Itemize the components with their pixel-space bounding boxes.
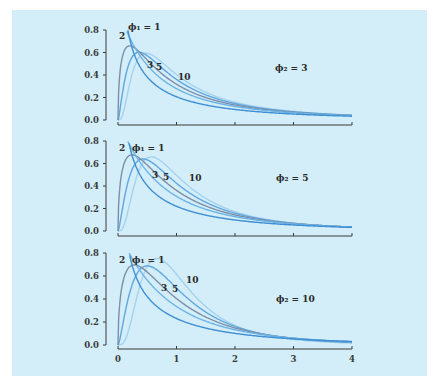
- f-distribution-chart: 0.8 0.6 0.4 0.2 0.0 2 ϕ₁ = 1 3 5 10 ϕ₂ =…: [0, 0, 438, 385]
- y-tick-label: 0.0: [84, 226, 99, 236]
- phi2-annotation: ϕ₂ = 3: [275, 63, 307, 73]
- y-tick-label: 0.0: [84, 115, 99, 125]
- x-tick-label: 0: [115, 354, 121, 364]
- curve-label-phi1-1: ϕ₁ = 1: [128, 22, 160, 32]
- phi2-annotation: ϕ₂ = 10: [276, 294, 315, 304]
- x-axis: [118, 233, 352, 236]
- y-axis: [103, 30, 106, 120]
- y-axis: [103, 253, 106, 345]
- curve-label-phi1-3: 3: [152, 170, 158, 180]
- phi2-annotation: ϕ₂ = 5: [276, 173, 308, 183]
- curve-label-phi1-1: ϕ₁ = 1: [132, 255, 164, 265]
- panel-curves: [118, 142, 352, 231]
- curve-label-phi1-2: 2: [119, 31, 125, 41]
- curve-label-phi1-10: 10: [189, 173, 202, 183]
- y-tick-label: 0.6: [84, 271, 99, 281]
- panel-curves: [118, 253, 352, 345]
- x-axis: [118, 122, 352, 125]
- x-tick-label: 1: [174, 354, 180, 364]
- y-tick-label: 0.8: [84, 136, 99, 146]
- y-tick-label: 0.4: [84, 70, 99, 80]
- y-tick-label: 0.8: [84, 248, 99, 258]
- curve-label-phi1-2: 2: [119, 255, 125, 265]
- x-axis: [118, 346, 352, 349]
- y-tick-label: 0.4: [84, 294, 99, 304]
- x-tick-label: 4: [349, 354, 355, 364]
- curve-label-phi1-1: ϕ₁ = 1: [132, 143, 164, 153]
- y-tick-label: 0.6: [84, 159, 99, 169]
- y-tick-label: 0.8: [84, 25, 99, 35]
- panel-curves: [118, 30, 352, 120]
- curve-label-phi1-3: 3: [161, 283, 167, 293]
- panel-phi2-10: 0.8 0.6 0.4 0.2 0.0 0 1 2 3 4 2 ϕ₁ = 1 3…: [84, 248, 355, 364]
- y-tick-label: 0.6: [84, 48, 99, 58]
- y-tick-label: 0.2: [84, 317, 99, 327]
- curve-label-phi1-10: 10: [186, 275, 199, 285]
- y-tick-label: 0.0: [84, 340, 99, 350]
- y-tick-label: 0.2: [84, 204, 99, 214]
- curve-label-phi1-5: 5: [163, 172, 169, 182]
- x-tick-label: 3: [291, 354, 297, 364]
- curve-phi1-10: [118, 259, 352, 346]
- x-tick-label: 2: [232, 354, 238, 364]
- y-tick-label: 0.2: [84, 93, 99, 103]
- panel-phi2-5: 0.8 0.6 0.4 0.2 0.0 2 ϕ₁ = 1 3 5 10 ϕ₂ =…: [84, 136, 352, 236]
- curve-label-phi1-2: 2: [119, 143, 125, 153]
- curve-label-phi1-5: 5: [172, 284, 178, 294]
- y-tick-label: 0.4: [84, 181, 99, 191]
- panel-phi2-3: 0.8 0.6 0.4 0.2 0.0 2 ϕ₁ = 1 3 5 10 ϕ₂ =…: [84, 22, 352, 125]
- curve-label-phi1-5: 5: [156, 62, 162, 72]
- curve-label-phi1-10: 10: [178, 72, 191, 82]
- y-axis: [103, 141, 106, 231]
- curve-label-phi1-3: 3: [147, 60, 153, 70]
